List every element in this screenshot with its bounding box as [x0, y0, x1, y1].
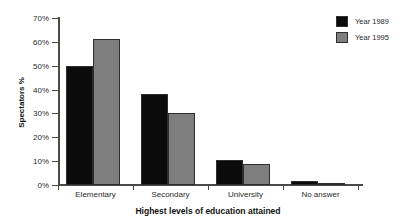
y-axis-tick-label: 0%: [37, 181, 49, 190]
x-axis-tick: [208, 185, 209, 190]
y-axis-title-text: Spectators %: [17, 77, 26, 128]
y-axis-tick-label: 10%: [33, 157, 49, 166]
bar-secondary-series-1[interactable]: [168, 113, 195, 185]
y-axis-title: Spectators %: [14, 56, 28, 148]
x-axis-tick: [283, 185, 284, 190]
bar-no-answer-series-1[interactable]: [318, 183, 345, 185]
bar-elementary-series-1[interactable]: [93, 39, 120, 185]
x-axis-tick: [133, 185, 134, 190]
legend-label: Year 1989: [355, 17, 389, 26]
y-axis-tick-label: 40%: [33, 85, 49, 94]
bar-elementary-series-0[interactable]: [66, 66, 93, 185]
legend-swatch-icon: [336, 32, 348, 43]
bar-chart-figure: Spectators % 0%10%20%30%40%50%60%70% Hig…: [0, 0, 414, 223]
x-axis-category-label: Secondary: [151, 190, 189, 199]
bar-secondary-series-0[interactable]: [141, 94, 168, 185]
x-axis-title: Highest levels of education attained: [58, 206, 358, 216]
cropped-title-remnant: [0, 0, 414, 6]
y-axis-tick-label: 50%: [33, 61, 49, 70]
x-axis-category-label: University: [228, 190, 263, 199]
bar-no-answer-series-0[interactable]: [291, 181, 318, 185]
y-axis-tick-label: 30%: [33, 109, 49, 118]
plot-area: 0%10%20%30%40%50%60%70%: [58, 18, 358, 185]
chart-legend: Year 1989Year 1995: [336, 15, 389, 47]
y-axis-tick-label: 20%: [33, 133, 49, 142]
y-axis-tick-label: 70%: [33, 14, 49, 23]
bar-university-series-1[interactable]: [243, 164, 270, 185]
bar-group: [133, 18, 208, 185]
x-axis-category-label: Elementary: [75, 190, 115, 199]
bar-group: [208, 18, 283, 185]
x-axis-tick: [58, 185, 59, 190]
legend-item[interactable]: Year 1995: [336, 31, 389, 44]
bar-university-series-0[interactable]: [216, 160, 243, 185]
x-axis-category-label: No answer: [301, 190, 339, 199]
legend-label: Year 1995: [355, 33, 389, 42]
x-axis-tick: [358, 185, 359, 190]
y-axis-tick-label: 60%: [33, 37, 49, 46]
legend-swatch-icon: [336, 16, 348, 27]
bar-group: [58, 18, 133, 185]
legend-item[interactable]: Year 1989: [336, 15, 389, 28]
